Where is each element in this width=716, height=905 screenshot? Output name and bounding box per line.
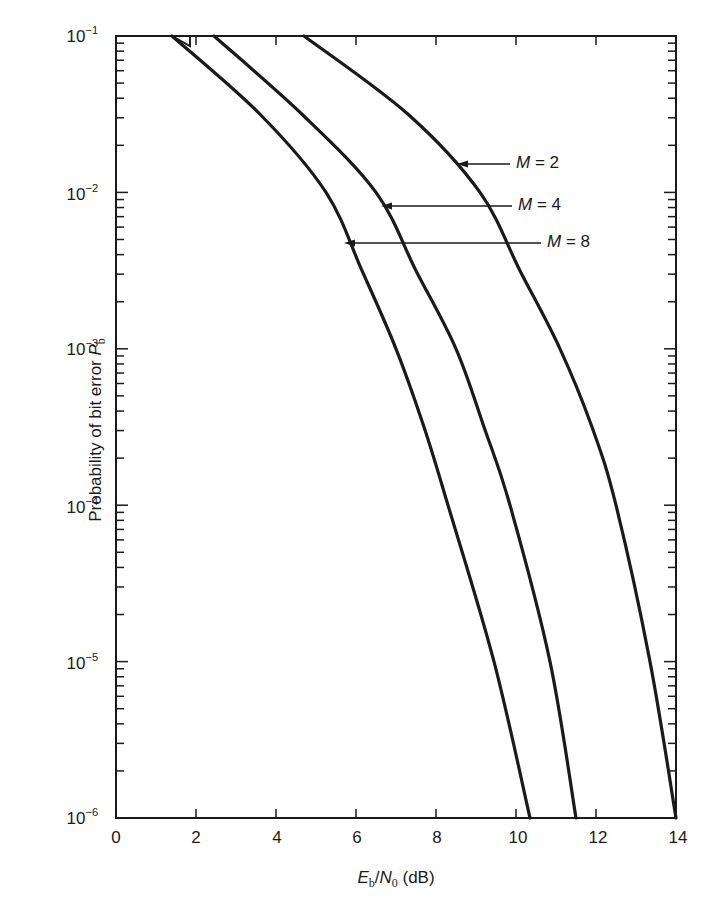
y-tick-label-1e-1: 10−1 bbox=[38, 25, 98, 47]
curve-m2 bbox=[304, 36, 676, 818]
series-label-m8: M = 8 bbox=[547, 232, 590, 252]
x-tick-label-2: 2 bbox=[181, 828, 211, 848]
y-tick-label-1e-2: 10−2 bbox=[38, 183, 98, 205]
series-label-m4: M = 4 bbox=[518, 195, 561, 215]
x-tick-label-0: 0 bbox=[101, 828, 131, 848]
y-tick-label-1e-6: 10−6 bbox=[38, 807, 98, 829]
y-tick-label-1e-5: 10−5 bbox=[38, 652, 98, 674]
x-tick-label-8: 8 bbox=[422, 828, 452, 848]
x-tick-label-4: 4 bbox=[262, 828, 292, 848]
series-label-m2: M = 2 bbox=[516, 153, 559, 173]
x-tick-label-12: 12 bbox=[583, 828, 613, 848]
curve-m8 bbox=[172, 36, 530, 818]
y-axis-title: Probability of bit error Pb bbox=[86, 338, 106, 522]
x-axis-title: Eb/N0 (dB) bbox=[357, 868, 434, 888]
x-tick-label-14: 14 bbox=[663, 828, 693, 848]
chart-canvas bbox=[0, 0, 716, 905]
x-tick-label-10: 10 bbox=[503, 828, 533, 848]
x-tick-label-6: 6 bbox=[342, 828, 372, 848]
